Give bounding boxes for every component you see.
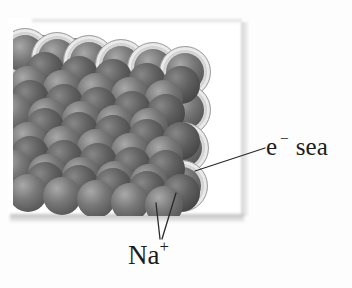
electron-sea-label: e−sea (266, 133, 328, 159)
panel-right-shadow (241, 22, 248, 216)
sodium-symbol: Na (128, 240, 159, 270)
sodium-ion-label: Na+ (128, 241, 169, 269)
na-ion-sphere (145, 186, 183, 216)
na-ion-sphere (77, 180, 115, 216)
electron-charge-superscript: − (280, 130, 289, 147)
figure-canvas: e−sea Na+ (0, 0, 352, 288)
electron-sea-word: sea (296, 133, 328, 160)
na-ion-sphere (43, 177, 81, 215)
na-ion-sphere (111, 183, 149, 216)
sodium-charge-superscript: + (159, 237, 168, 256)
sodium-lattice (13, 14, 215, 216)
electron-symbol: e (266, 133, 277, 160)
na-ion-sphere (13, 174, 47, 212)
